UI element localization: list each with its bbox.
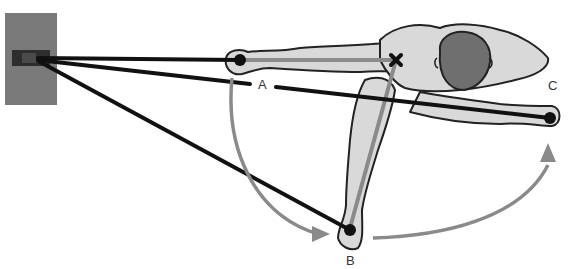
label-position-b: B (346, 254, 355, 267)
label-position-a: A (252, 78, 273, 91)
arrowhead-b-to-c-icon (540, 143, 556, 162)
cable-pull-diagram (0, 0, 578, 269)
hand-point-a (234, 54, 246, 66)
label-position-c: C (548, 79, 557, 92)
cable-to-a (38, 58, 240, 60)
diagram-stage: A B C (0, 0, 578, 269)
arrowhead-a-to-b-icon (312, 226, 330, 242)
hand-point-b (344, 224, 356, 236)
arc-a-to-b (231, 78, 318, 234)
cable-to-b (40, 62, 350, 230)
hand-point-c (544, 112, 556, 124)
arc-b-to-c (373, 165, 548, 238)
